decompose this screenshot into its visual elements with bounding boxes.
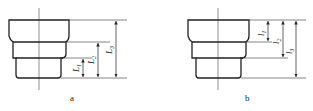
svg-text:L1: L1 bbox=[71, 64, 82, 73]
figure-b: l1 l2 l3 b bbox=[188, 8, 306, 103]
figure-a: L1 L2 L3 a bbox=[9, 8, 127, 103]
label-L1: L1 bbox=[71, 64, 82, 73]
stepped-part-diagram: L1 L2 L3 a l1 l2 l3 b bbox=[0, 0, 313, 111]
label-l2: l2 bbox=[271, 38, 282, 44]
svg-text:l2: l2 bbox=[271, 38, 282, 44]
label-L3: L3 bbox=[104, 46, 115, 55]
svg-text:L2: L2 bbox=[86, 56, 97, 65]
stepped-part-b bbox=[188, 20, 249, 78]
caption-a: a bbox=[70, 93, 74, 103]
svg-text:l3: l3 bbox=[284, 48, 295, 54]
svg-text:l1: l1 bbox=[256, 30, 267, 36]
label-l3: l3 bbox=[284, 48, 295, 54]
svg-text:L3: L3 bbox=[104, 46, 115, 55]
label-L2: L2 bbox=[86, 56, 97, 65]
label-l1: l1 bbox=[256, 30, 267, 36]
caption-b: b bbox=[245, 93, 250, 103]
